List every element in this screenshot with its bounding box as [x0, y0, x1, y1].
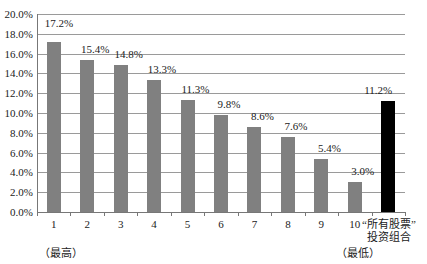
value-label: 17.2%: [34, 17, 84, 29]
y-tick-label: 12.0%: [0, 87, 33, 99]
x-tick: [104, 212, 105, 216]
x-tick-label: 9: [304, 218, 338, 230]
x-tick: [204, 212, 205, 216]
value-label: 14.8%: [104, 48, 154, 60]
bar-chart: 0.0%2.0%4.0%6.0%8.0%10.0%12.0%14.0%16.0%…: [0, 0, 427, 264]
gridline: [37, 34, 405, 35]
bar: [181, 100, 195, 212]
highest-note: （最高）: [39, 244, 83, 260]
x-label-all-stocks-portfolio: “所有股票” 投资组合: [359, 218, 419, 244]
x-tick: [238, 212, 239, 216]
y-tick-label: 4.0%: [0, 166, 33, 178]
x-tick: [271, 212, 272, 216]
y-tick-label: 16.0%: [0, 48, 33, 60]
x-tick: [338, 212, 339, 216]
x-tick-label: 2: [70, 218, 104, 230]
value-label: 13.3%: [137, 63, 187, 75]
x-tick: [305, 212, 306, 216]
bar: [47, 42, 61, 212]
bar: [247, 127, 261, 212]
x-tick-label: 1: [37, 218, 71, 230]
y-axis: [37, 14, 38, 212]
value-label: 11.2%: [353, 84, 403, 96]
y-tick-label: 2.0%: [0, 186, 33, 198]
x-tick-label: 4: [137, 218, 171, 230]
lowest-note: （最低）: [336, 244, 380, 260]
x-tick: [37, 212, 38, 216]
bar: [381, 101, 395, 212]
x-tick-label: 8: [271, 218, 305, 230]
bar: [281, 137, 295, 212]
value-label: 11.3%: [171, 83, 221, 95]
x-label-line1: “所有股票”: [359, 218, 419, 231]
gridline: [37, 14, 405, 15]
bar: [114, 65, 128, 212]
x-tick-label: 6: [204, 218, 238, 230]
value-label: 9.8%: [204, 98, 254, 110]
x-tick-label: 5: [171, 218, 205, 230]
x-label-line2: 投资组合: [359, 231, 419, 244]
bar: [314, 159, 328, 212]
bar: [80, 60, 94, 212]
x-tick: [372, 212, 373, 216]
value-label: 5.4%: [304, 142, 354, 154]
bar: [214, 115, 228, 212]
x-tick-label: 3: [104, 218, 138, 230]
x-axis: [37, 212, 405, 213]
x-tick: [405, 212, 406, 216]
y-tick-label: 0.0%: [0, 206, 33, 218]
x-tick: [137, 212, 138, 216]
bar: [348, 182, 362, 212]
bar: [147, 80, 161, 212]
x-tick: [70, 212, 71, 216]
x-tick-label: 7: [237, 218, 271, 230]
y-tick-label: 20.0%: [0, 8, 33, 20]
y-tick-label: 6.0%: [0, 147, 33, 159]
y-tick-label: 10.0%: [0, 107, 33, 119]
x-tick: [171, 212, 172, 216]
value-label: 7.6%: [271, 120, 321, 132]
y-tick-label: 14.0%: [0, 67, 33, 79]
y-tick-label: 18.0%: [0, 28, 33, 40]
y-tick-label: 8.0%: [0, 127, 33, 139]
